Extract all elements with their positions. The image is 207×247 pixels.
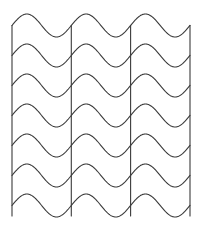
wave-pattern-figure — [0, 0, 207, 247]
wave-pattern-canvas — [0, 0, 207, 247]
